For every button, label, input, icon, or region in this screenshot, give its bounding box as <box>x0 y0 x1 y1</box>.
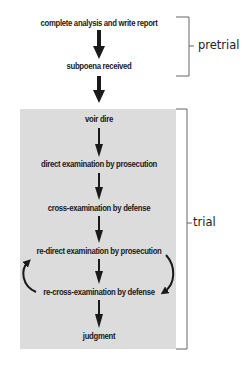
step-voir-dire: voir dire <box>14 114 184 124</box>
step-subpoena-received: subpoena received <box>14 61 184 71</box>
trial-bracket <box>176 109 192 349</box>
step-re-direct-examination: re-direct examination by prosecution <box>14 246 184 256</box>
step-cross-examination: cross-examination by defense <box>14 203 184 213</box>
thick-down-arrow-icon <box>93 76 105 103</box>
pretrial-label: pretrial <box>198 38 240 52</box>
diagram-arrows-and-brackets <box>0 0 245 367</box>
step-re-cross-examination: re-cross-examination by defense <box>14 287 184 297</box>
step-judgment: judgment <box>14 331 184 341</box>
down-arrow-icon <box>95 128 103 328</box>
trial-label: trial <box>193 215 216 229</box>
step-complete-analysis: complete analysis and write report <box>14 18 184 28</box>
step-direct-examination: direct examination by prosecution <box>14 159 184 169</box>
thick-down-arrow-icon <box>93 30 105 59</box>
